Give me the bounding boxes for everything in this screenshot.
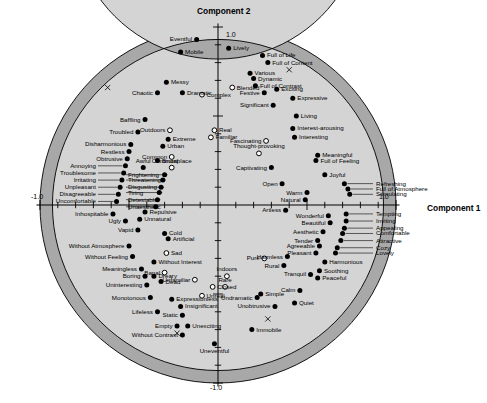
- data-point-label: Troubled: [109, 129, 133, 135]
- data-point-label: Boring: [123, 273, 141, 279]
- data-point-label: Lively: [233, 45, 249, 51]
- data-point-label: Full of Content: [272, 59, 312, 65]
- data-point-label: Monotonous: [112, 294, 146, 300]
- data-point-label: Without Interest: [158, 259, 201, 265]
- data-point-label: Familiar: [215, 134, 237, 140]
- data-point-label: Disharmonious: [85, 141, 126, 147]
- y-axis-max-label: 1.0: [226, 31, 236, 38]
- data-point-label: Harmonious: [329, 259, 362, 265]
- data-point-label: Insignificant: [185, 303, 218, 309]
- data-point-label: Expressive: [297, 95, 327, 101]
- data-point-label: Full of Feeling: [320, 157, 359, 163]
- x-axis-max-label: 1.0: [379, 193, 389, 200]
- data-point-label: Undramatic: [221, 294, 253, 300]
- data-point-label: Inhospitable: [75, 211, 108, 217]
- data-point-label: Without Feeling: [85, 254, 128, 260]
- data-point-label: Troublesome: [60, 170, 96, 176]
- data-point-label: Expressionless: [176, 296, 218, 302]
- data-point-label: Outdoors: [140, 127, 165, 133]
- data-point-label: Rural: [265, 262, 280, 268]
- data-point-label: Obtrusive: [96, 156, 122, 162]
- data-point-label: Harmless: [257, 254, 283, 260]
- y-axis-title: Component 2: [197, 6, 251, 16]
- data-point-label: Captivating: [236, 165, 267, 171]
- data-point-label: Aesthetic: [293, 229, 318, 235]
- data-point-label: Closed: [217, 284, 236, 290]
- data-point-label: Open: [262, 181, 277, 187]
- data-point-label: Without Atmosphere: [69, 243, 125, 249]
- data-point-label: Pure: [247, 255, 260, 261]
- data-point-label: Static: [162, 312, 177, 318]
- data-point-label: Unobtrusive: [237, 303, 270, 309]
- data-point-label: Tranquil: [284, 271, 306, 277]
- data-point-label: Cold: [169, 230, 182, 236]
- data-point-label: Dreary: [158, 273, 177, 279]
- data-point-label: Sad: [171, 250, 182, 256]
- data-point-label: Living: [301, 113, 317, 119]
- data-point-label: Urban: [167, 143, 184, 149]
- data-point-label: Eventful: [170, 36, 192, 42]
- y-axis-min-label: -1.0: [210, 384, 222, 391]
- data-point-label: Chaotic: [132, 90, 153, 96]
- data-point-label: Festive: [240, 90, 260, 96]
- data-point-label: Complex: [206, 92, 230, 98]
- data-point-label: Immobile: [256, 326, 281, 332]
- x-axis-title: Component 1: [427, 203, 481, 213]
- data-point-label: Artificial: [173, 236, 195, 242]
- data-point-label: Extreme: [173, 136, 196, 142]
- data-point-label: Unexciting: [192, 323, 221, 329]
- chart-root: EventfulMobileLivelyFull of LifeFull of …: [0, 0, 487, 403]
- data-point-label: Unpleasant: [65, 184, 96, 190]
- data-point-label: Thought-provoking: [233, 143, 285, 149]
- data-point-label: Meaningless: [102, 266, 137, 272]
- data-point-label: Ugly: [109, 218, 121, 224]
- data-point-label: Uneventful: [200, 348, 230, 354]
- data-point-label: Lovely: [376, 250, 394, 256]
- data-point-label: Without Contrast: [132, 332, 178, 338]
- data-point-label: Indoors: [217, 266, 238, 272]
- data-point-label: Uncomfortable: [56, 198, 96, 204]
- data-point-label: Peaceful: [322, 275, 346, 281]
- data-point-label: Messy: [171, 79, 189, 85]
- data-point-label: Natural: [281, 197, 301, 203]
- data-point-label: Quiet: [299, 300, 314, 306]
- data-point-label: Repulsive: [150, 209, 177, 215]
- data-point-label: Unnatural: [144, 216, 171, 222]
- data-point-label: Baffling: [120, 116, 141, 122]
- data-point-label: Restless: [101, 148, 125, 154]
- data-point-label: Interest-arousing: [297, 125, 343, 131]
- data-point-label: Annoying: [70, 163, 96, 169]
- data-point-label: Exciting: [281, 86, 303, 92]
- data-point-label: Beautiful: [302, 220, 326, 226]
- data-point-label: Irritating: [74, 177, 96, 183]
- x-axis-min-label: -1.0: [31, 193, 43, 200]
- data-point-label: Commonplace: [152, 158, 192, 164]
- data-point-label: Vapid: [118, 227, 133, 233]
- data-point-label: Uninteresting: [106, 282, 142, 288]
- data-point-label: Interesting: [299, 134, 328, 140]
- data-point-label: Disagreeable: [60, 191, 96, 197]
- data-point-label: Empty: [155, 323, 173, 329]
- data-point-label: Unaesthetic: [128, 204, 161, 210]
- data-point-label: Artless: [262, 207, 281, 213]
- data-point-label: Pleasant: [287, 250, 311, 256]
- data-point-label: Lifeless: [132, 309, 153, 315]
- data-point-label: Mobile: [185, 49, 203, 55]
- data-point-label: Joyful: [329, 172, 345, 178]
- data-point-label: Simple: [265, 291, 284, 297]
- data-point-label: Significant: [240, 102, 269, 108]
- data-point-label: Dead: [166, 278, 181, 284]
